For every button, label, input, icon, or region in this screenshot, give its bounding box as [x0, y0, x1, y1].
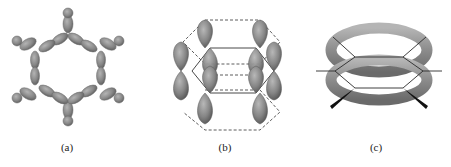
panel-c-label: (c) — [356, 141, 396, 153]
panel-a-sigma-framework: (a) — [0, 0, 150, 167]
panel-b-p-orbitals: (b) — [150, 0, 300, 167]
panel-c-pi-cloud: (c) — [300, 0, 451, 167]
panel-b-label: (b) — [205, 141, 245, 153]
panel-a-label: (a) — [47, 141, 87, 153]
